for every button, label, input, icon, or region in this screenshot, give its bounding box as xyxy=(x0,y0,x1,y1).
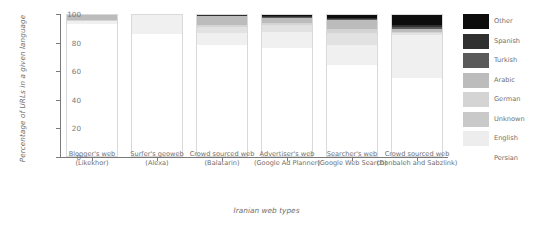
legend-item-spanish[interactable]: Spanish xyxy=(463,34,533,49)
legend-item-turkish[interactable]: Turkish xyxy=(463,53,533,68)
legend-label-turkish: Turkish xyxy=(494,56,517,64)
bar-3[interactable] xyxy=(261,14,313,157)
legend-label-english: English xyxy=(494,134,518,142)
legend-swatch-german xyxy=(463,92,489,107)
bar-outline xyxy=(196,14,248,157)
bar-4[interactable] xyxy=(326,14,378,157)
legend-swatch-unknown xyxy=(463,112,489,127)
legend-label-persian: Persian xyxy=(494,154,518,162)
legend-item-persian[interactable]: Persian xyxy=(463,151,533,166)
legend-item-german[interactable]: German xyxy=(463,92,533,107)
bar-outline xyxy=(131,14,183,157)
y-tick-label: 40 xyxy=(41,96,81,105)
bar-outline xyxy=(261,14,313,157)
legend-item-unknown[interactable]: Unknown xyxy=(463,112,533,127)
y-axis-line xyxy=(60,14,61,157)
bar-outline xyxy=(326,14,378,157)
legend-label-arabic: Arabic xyxy=(494,76,515,84)
x-tick-label-5: Crowd sourced web(Donbaleh and Sabzlink) xyxy=(369,150,465,168)
legend-swatch-turkish xyxy=(463,53,489,68)
bar-outline xyxy=(391,14,443,157)
y-tick-label: 100 xyxy=(41,10,81,19)
y-tick-label: 20 xyxy=(41,124,81,133)
legend-item-arabic[interactable]: Arabic xyxy=(463,73,533,88)
legend-label-other: Other xyxy=(494,17,513,25)
legend-label-unknown: Unknown xyxy=(494,115,525,123)
legend-label-german: German xyxy=(494,95,520,103)
legend-swatch-other xyxy=(463,14,489,29)
x-axis-title: Iranian web types xyxy=(0,206,533,215)
bar-outline xyxy=(66,14,118,157)
bar-2[interactable] xyxy=(196,14,248,157)
bar-5[interactable] xyxy=(391,14,443,157)
legend-swatch-spanish xyxy=(463,34,489,49)
stacked-bar-chart: Percentage of URLs in a given language 0… xyxy=(0,0,533,233)
legend-swatch-persian xyxy=(463,151,489,166)
legend-swatch-english xyxy=(463,131,489,146)
legend-swatch-arabic xyxy=(463,73,489,88)
legend-item-english[interactable]: English xyxy=(463,131,533,146)
legend-item-other[interactable]: Other xyxy=(463,14,533,29)
bar-1[interactable] xyxy=(131,14,183,157)
legend-label-spanish: Spanish xyxy=(494,37,520,45)
y-axis-title: Percentage of URLs in a given language xyxy=(18,9,27,169)
bar-0[interactable] xyxy=(66,14,118,157)
y-tick-label: 80 xyxy=(41,39,81,48)
plot-area xyxy=(60,14,448,157)
y-tick-label: 60 xyxy=(41,67,81,76)
